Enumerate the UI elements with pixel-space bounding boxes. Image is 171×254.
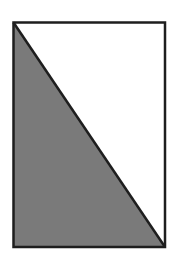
rectangle-diagonal-diagram xyxy=(0,0,171,254)
